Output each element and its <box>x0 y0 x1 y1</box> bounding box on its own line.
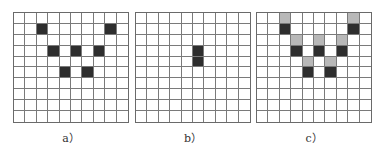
grid-cell <box>25 78 36 89</box>
grid-cell <box>314 67 325 78</box>
grid-cell <box>170 89 181 100</box>
grid-cell <box>268 57 279 68</box>
grid-cell <box>182 24 193 35</box>
grid-cell <box>216 67 227 78</box>
grid-cell <box>94 35 105 46</box>
grid-cell <box>204 35 215 46</box>
grid-cell <box>348 78 359 89</box>
grid-cell <box>337 67 348 78</box>
grid-cell <box>337 89 348 100</box>
grid-cell <box>25 57 36 68</box>
grid-cell <box>348 57 359 68</box>
grid-cell <box>182 13 193 24</box>
grid-cell <box>25 67 36 78</box>
grid-cell <box>117 78 128 89</box>
grid-cell <box>204 67 215 78</box>
grid-cell <box>280 57 291 68</box>
grid-cell <box>303 100 314 111</box>
grid-cell <box>314 24 325 35</box>
grid-cell <box>216 13 227 24</box>
grid-cell <box>37 67 48 78</box>
grid-cell <box>193 13 204 24</box>
grid-cell <box>360 78 371 89</box>
grid-cell <box>280 100 291 111</box>
grid-cell <box>147 57 158 68</box>
grid-cell <box>117 67 128 78</box>
dark-cell <box>60 67 71 78</box>
grid-cell <box>280 35 291 46</box>
grid-cell <box>257 67 268 78</box>
grid-cell <box>182 100 193 111</box>
grid-cell <box>60 89 71 100</box>
dark-cell <box>37 24 48 35</box>
grid-cell <box>239 24 250 35</box>
grid-cell <box>193 89 204 100</box>
grid-cell <box>159 100 170 111</box>
grid-cell <box>291 13 302 24</box>
grid-cell <box>37 35 48 46</box>
grid-cell <box>303 35 314 46</box>
grid-cell <box>348 67 359 78</box>
grid-cell <box>136 78 147 89</box>
grid-cell <box>105 78 116 89</box>
grid-cell <box>147 78 158 89</box>
grid-cell <box>159 13 170 24</box>
gray-cell <box>337 35 348 46</box>
grid-cell <box>170 78 181 89</box>
grid-cell <box>216 89 227 100</box>
dark-cell <box>94 46 105 57</box>
grid-cell <box>71 24 82 35</box>
grid-cell <box>227 13 238 24</box>
grid-cell <box>182 35 193 46</box>
grid-cell <box>117 24 128 35</box>
grid-cell <box>105 13 116 24</box>
grid-cell <box>48 100 59 111</box>
grid-cell <box>257 24 268 35</box>
grid-cell <box>239 111 250 122</box>
grid-cell <box>170 67 181 78</box>
grid-cell <box>303 111 314 122</box>
grid-cell <box>337 57 348 68</box>
grid-cell <box>291 111 302 122</box>
grid-cell <box>94 13 105 24</box>
grid-cell <box>216 35 227 46</box>
grid-cell <box>60 24 71 35</box>
grid-cell <box>314 111 325 122</box>
grid-cell <box>82 24 93 35</box>
grid-cell <box>105 57 116 68</box>
grid-cell <box>314 57 325 68</box>
grid-cell <box>25 13 36 24</box>
grid-cell <box>280 67 291 78</box>
grid-cell <box>216 57 227 68</box>
grid-cell <box>268 46 279 57</box>
grid-cell <box>136 46 147 57</box>
grid-cell <box>147 35 158 46</box>
grid-cell <box>303 24 314 35</box>
grid-cell <box>170 111 181 122</box>
grid-cell <box>117 100 128 111</box>
grid-cell <box>303 89 314 100</box>
grid-cell <box>105 46 116 57</box>
grid-cell <box>60 111 71 122</box>
grid-cell <box>216 111 227 122</box>
grid-cell <box>25 35 36 46</box>
grid-cell <box>257 46 268 57</box>
grid-cell <box>170 100 181 111</box>
dark-cell <box>280 24 291 35</box>
grid-cell <box>82 78 93 89</box>
grid-cell <box>60 35 71 46</box>
grid-cell <box>239 57 250 68</box>
dark-cell <box>105 24 116 35</box>
grid-cell <box>325 78 336 89</box>
gray-cell <box>314 35 325 46</box>
dark-cell <box>71 46 82 57</box>
grid-cell <box>182 67 193 78</box>
grid-cell <box>291 24 302 35</box>
grid-cell <box>291 100 302 111</box>
grid-cell <box>239 35 250 46</box>
grid-cell <box>360 24 371 35</box>
grid-cell <box>291 89 302 100</box>
grid-cell <box>204 100 215 111</box>
grid-cell <box>94 67 105 78</box>
grid-cell <box>71 35 82 46</box>
